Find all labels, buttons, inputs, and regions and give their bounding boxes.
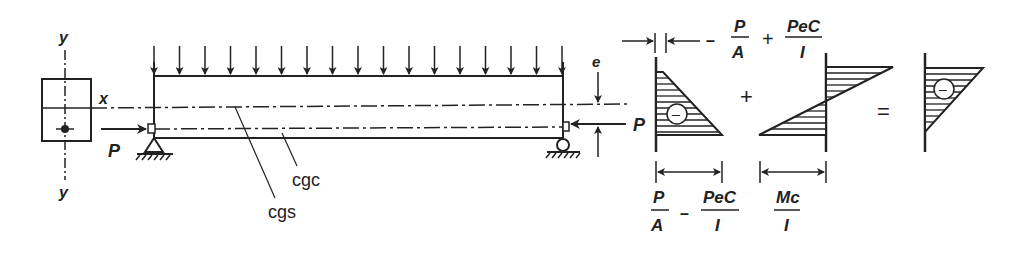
plus-sign: + bbox=[740, 84, 753, 109]
equals-sign: = bbox=[877, 99, 890, 124]
bottom-mc-num: Mc bbox=[776, 188, 800, 207]
y-axis-top-label: y bbox=[58, 29, 69, 46]
top-a-den: A bbox=[731, 43, 744, 62]
bottom-p-num: P bbox=[653, 188, 665, 207]
bottom-i2-den: I bbox=[784, 216, 790, 235]
bottom-pec-num: PeC bbox=[703, 188, 737, 207]
cgc-line bbox=[91, 104, 630, 108]
stress-diagram-resultant: – bbox=[925, 53, 983, 152]
prestress-right-label: P bbox=[633, 115, 646, 135]
bottom-i-den: I bbox=[715, 216, 721, 235]
cgc-label: cgc bbox=[292, 170, 320, 190]
eccentricity-label: e bbox=[592, 53, 600, 70]
compression-sign: – bbox=[672, 106, 680, 122]
top-pec-num: PeC bbox=[787, 17, 821, 36]
bottom-a-den: A bbox=[650, 216, 663, 235]
cgs-label: cgs bbox=[268, 202, 296, 222]
top-plus: + bbox=[762, 28, 774, 50]
eccentricity-dimension: e bbox=[592, 53, 600, 157]
uniform-load-arrows bbox=[154, 46, 562, 74]
cgs-line bbox=[154, 127, 563, 129]
bottom-dimension-1: P A – PeC I bbox=[650, 161, 739, 235]
stress-diagram-prestress: – bbox=[656, 57, 722, 152]
beam bbox=[91, 62, 630, 138]
bottom-dimension-2: Mc I bbox=[760, 161, 826, 235]
y-axis-bottom-label: y bbox=[58, 184, 69, 201]
stress-diagram-bending bbox=[759, 53, 893, 152]
prestress-left-label: P bbox=[108, 141, 121, 161]
pin-support-icon bbox=[136, 138, 173, 160]
prestressed-beam-diagram: y y x bbox=[0, 0, 1024, 253]
bottom-minus: – bbox=[680, 205, 689, 222]
top-dimension: – P A + PeC I bbox=[622, 17, 822, 62]
cross-section: y y x bbox=[42, 29, 109, 201]
roller-support-icon bbox=[546, 139, 580, 158]
top-minus: – bbox=[706, 32, 715, 49]
resultant-compression-sign: – bbox=[939, 81, 947, 97]
x-axis-label: x bbox=[98, 90, 109, 107]
top-p-num: P bbox=[734, 17, 746, 36]
top-i-den: I bbox=[800, 43, 806, 62]
